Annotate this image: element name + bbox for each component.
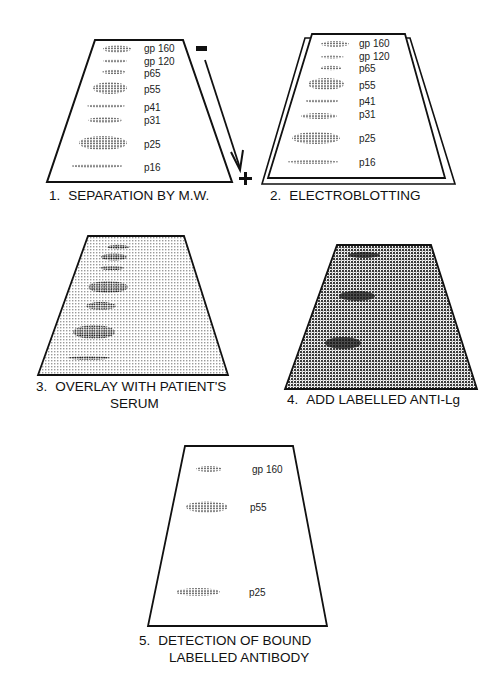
membrane-front-sheet [268, 34, 445, 178]
step-2-caption: 2.ELECTROBLOTTING [270, 188, 421, 203]
band-label-p25: p25 [359, 133, 376, 144]
negative-electrode-icon [196, 46, 207, 51]
band-label-p41: p41 [144, 102, 161, 113]
band-label-p25: p25 [144, 139, 161, 150]
membrane-anti-ig-overlay [285, 245, 477, 389]
band-label-p65: p65 [359, 63, 376, 74]
positive-electrode-icon [239, 172, 252, 185]
band-label-gp120: gp 120 [144, 56, 175, 67]
step-3-caption-line1: 3.OVERLAY WITH PATIENT'S [36, 379, 226, 394]
band-label-p31: p31 [359, 109, 376, 120]
western-blot-diagram: gp 160 gp 120 p65 p55 p41 p31 p25 p16 1.… [0, 0, 494, 699]
band-label-p16: p16 [144, 162, 161, 173]
step-1-caption: 1.SEPARATION BY M.W. [49, 188, 209, 203]
step-5-detection: gp 160 p55 p25 5.DETECTION OF BOUND LABE… [139, 446, 327, 665]
step-3-caption-line2: SERUM [110, 396, 159, 411]
gel-trapezoid [47, 40, 232, 182]
band-label-p25: p25 [249, 587, 266, 598]
developed-membrane [148, 446, 327, 626]
band-label-gp120: gp 120 [359, 51, 390, 62]
step-1-separation: gp 160 gp 120 p65 p55 p41 p31 p25 p16 1.… [47, 40, 252, 203]
band-label-p65: p65 [144, 68, 161, 79]
step-3-overlay-serum: 3.OVERLAY WITH PATIENT'S SERUM [36, 236, 228, 411]
band-label-p41: p41 [359, 96, 376, 107]
band-label-p55: p55 [250, 502, 267, 513]
step-5-caption-line2: LABELLED ANTIBODY [169, 650, 309, 665]
step-5-caption-line1: 5.DETECTION OF BOUND [139, 633, 312, 648]
band-label-p55: p55 [359, 80, 376, 91]
band-label-gp160: gp 160 [252, 464, 283, 475]
band-label-p31: p31 [144, 115, 161, 126]
band-label-p55: p55 [144, 84, 161, 95]
band-label-gp160: gp 160 [144, 43, 175, 54]
step-4-labelled-anti-ig: 4.ADD LABELLED ANTI-Lg [285, 245, 477, 407]
step-2-electroblotting: gp 160 gp 120 p65 p55 p41 p31 p25 p16 2.… [262, 34, 455, 203]
band-label-p16: p16 [359, 157, 376, 168]
membrane-serum-overlay [38, 236, 228, 375]
step-4-caption: 4.ADD LABELLED ANTI-Lg [287, 392, 460, 407]
band-label-gp160: gp 160 [359, 38, 390, 49]
